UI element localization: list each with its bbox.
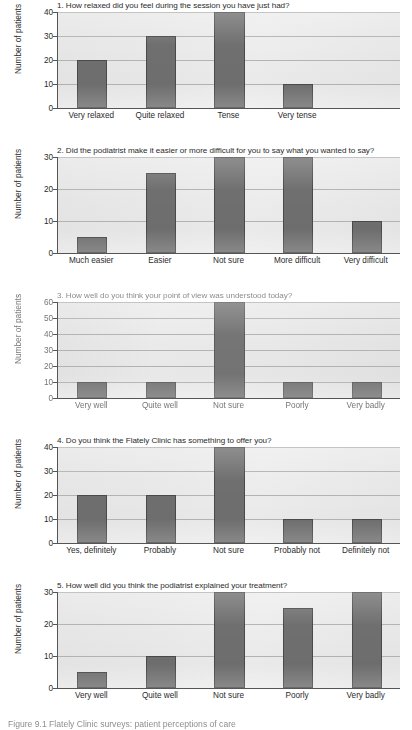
bar [283,608,313,688]
bar [214,12,244,108]
bar [214,447,244,543]
x-tick-label: Very well [75,401,108,410]
bar [214,592,244,688]
x-tick-label: Tense [218,111,240,120]
y-tick-mark [53,253,57,254]
y-tick-mark [53,382,57,383]
y-tick-mark [53,688,57,689]
chart-panel-1: 1. How relaxed did you feel during the s… [0,0,412,142]
bar [146,36,176,108]
bar [77,60,107,108]
x-tick-label: Probably not [274,546,320,555]
x-tick-label: Very tense [278,111,317,120]
y-tick-mark [53,108,57,109]
plot-area-3 [57,302,400,398]
x-tick-label: Poorly [285,691,308,700]
y-tick-label: 0 [29,104,53,113]
y-tick-label: 50 [29,314,53,323]
chart-panel-4: 4. Do you think the Flately Clinic has s… [0,435,412,577]
x-axis-line [57,108,400,109]
y-tick-label: 20 [29,56,53,65]
x-axis-line [57,398,400,399]
y-tick-label: 10 [29,652,53,661]
bar [146,173,176,253]
y-tick-mark [53,471,57,472]
bar [352,592,382,688]
y-tick-label: 0 [29,394,53,403]
y-tick-mark [53,157,57,158]
bar [352,382,382,398]
y-tick-mark [53,447,57,448]
y-tick-label: 0 [29,249,53,258]
x-tick-label: Not sure [213,691,244,700]
bar [283,519,313,543]
y-tick-label: 10 [29,217,53,226]
y-tick-label: 40 [29,330,53,339]
bar [214,157,244,253]
y-tick-label: 30 [29,467,53,476]
plot-area-5 [57,592,400,688]
bar [77,237,107,253]
y-tick-mark [53,221,57,222]
plot-area-2 [57,157,400,253]
y-tick-label: 20 [29,620,53,629]
y-tick-label: 0 [29,539,53,548]
survey-figure: 1. How relaxed did you feel during the s… [0,0,412,730]
plot-canvas [57,447,400,543]
x-tick-label: Easier [148,256,171,265]
x-tick-label: Very difficult [344,256,388,265]
x-axis-line [57,688,400,689]
bar [146,495,176,543]
y-tick-mark [53,624,57,625]
bar [77,672,107,688]
y-tick-mark [53,334,57,335]
y-tick-mark [53,36,57,37]
x-tick-label: Very relaxed [69,111,115,120]
y-tick-label: 10 [29,515,53,524]
chart-title-5: 5. How well did you think the podiatrist… [57,580,287,591]
y-tick-mark [53,495,57,496]
y-tick-mark [53,12,57,13]
y-axis-ticks-4: 010203040 [0,447,53,543]
y-tick-label: 40 [29,8,53,17]
x-tick-label: Quite well [142,691,178,700]
x-tick-label: Not sure [213,546,244,555]
x-tick-label: Quite well [142,401,178,410]
bar [283,382,313,398]
y-tick-label: 10 [29,378,53,387]
bar [283,84,313,108]
y-tick-label: 30 [29,588,53,597]
bar [77,382,107,398]
y-tick-mark [53,519,57,520]
y-tick-label: 10 [29,80,53,89]
bar [77,495,107,543]
y-axis-ticks-2: 0102030 [0,157,53,253]
bar [352,221,382,253]
bar [214,302,244,398]
y-tick-mark [53,592,57,593]
y-tick-mark [53,656,57,657]
plot-canvas [57,302,400,398]
chart-panel-5: 5. How well did you think the podiatrist… [0,580,412,722]
plot-area-1 [57,12,400,108]
bar [283,157,313,253]
x-tick-label: Probably [144,546,176,555]
bar [146,656,176,688]
x-tick-label: More difficult [274,256,320,265]
y-tick-label: 20 [29,362,53,371]
chart-panel-3: 3. How well do you think your point of v… [0,290,412,432]
x-tick-label: Very well [75,691,108,700]
y-tick-label: 20 [29,185,53,194]
x-tick-label: Not sure [213,256,244,265]
y-tick-label: 30 [29,346,53,355]
x-tick-label: Very badly [347,691,385,700]
y-axis-ticks-1: 010203040 [0,12,53,108]
x-tick-label: Yes, definitely [66,546,116,555]
plot-area-4 [57,447,400,543]
chart-title-3: 3. How well do you think your point of v… [57,290,292,301]
x-tick-label: Definitely not [342,546,389,555]
x-tick-label: Quite relaxed [136,111,185,120]
chart-title-4: 4. Do you think the Flately Clinic has s… [57,435,272,446]
plot-canvas [57,12,400,108]
x-tick-label: Not sure [213,401,244,410]
